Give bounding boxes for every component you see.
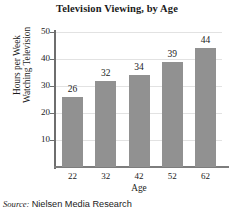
- y-tick-mark: [50, 32, 55, 33]
- y-tick-mark: [50, 59, 55, 60]
- bar-value-label: 32: [92, 68, 120, 78]
- bar-value-label: 44: [191, 35, 219, 45]
- y-tick-label: 40: [30, 53, 50, 63]
- x-tick-label: 62: [191, 171, 219, 181]
- bar-value-label: 34: [125, 62, 153, 72]
- bar-value-label: 26: [59, 84, 87, 94]
- source-text: Nielsen Media Research: [32, 199, 132, 209]
- y-axis-title-line-1: Hours per Week: [12, 35, 23, 95]
- y-tick-mark: [50, 140, 55, 141]
- y-axis-title-line-2: Watching Television: [22, 27, 33, 103]
- bar: [162, 62, 183, 167]
- y-tick-label: 30: [30, 80, 50, 90]
- source-line: Source: Nielsen Media Research: [3, 199, 132, 209]
- y-tick-mark: [50, 86, 55, 87]
- source-label: Source:: [3, 199, 29, 209]
- x-tick-label: 32: [92, 171, 120, 181]
- x-tick-label: 42: [125, 171, 153, 181]
- y-tick-label: 10: [30, 134, 50, 144]
- chart-title: Television Viewing, by Age: [0, 3, 234, 14]
- bar: [195, 48, 216, 167]
- gridline: [56, 32, 222, 33]
- y-tick-label: 20: [30, 107, 50, 117]
- x-tick-label: 22: [59, 171, 87, 181]
- y-tick-mark: [50, 113, 55, 114]
- x-tick-label: 52: [158, 171, 186, 181]
- plot-area: [56, 32, 222, 167]
- y-tick-label: 50: [30, 26, 50, 36]
- chart-figure: Television Viewing, by Age Hours per Wee…: [0, 0, 234, 215]
- bar-value-label: 39: [158, 49, 186, 59]
- x-axis-title: Age: [56, 183, 222, 193]
- bar: [129, 75, 150, 167]
- bar: [62, 97, 83, 167]
- bar: [95, 81, 116, 167]
